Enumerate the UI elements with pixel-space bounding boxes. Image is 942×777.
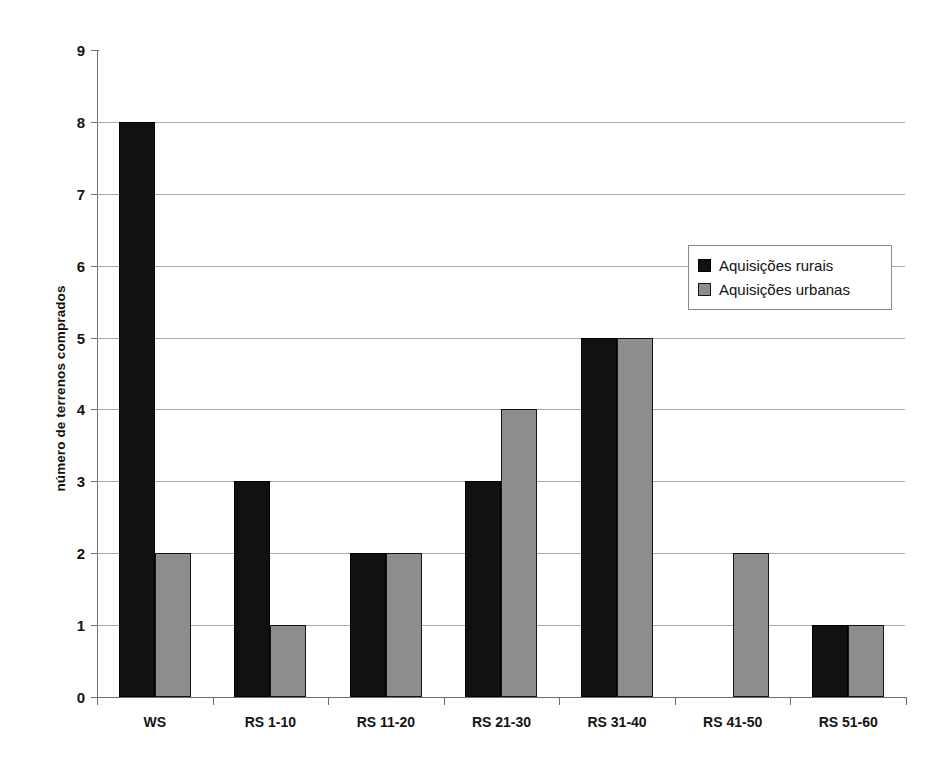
legend-swatch-urban-icon bbox=[698, 283, 711, 296]
bar-rural bbox=[581, 338, 617, 697]
bar-rural bbox=[465, 481, 501, 697]
legend: Aquisições rurais Aquisições urbanas bbox=[688, 245, 892, 310]
x-axis-tick-mark bbox=[675, 697, 676, 705]
bar-urban bbox=[155, 553, 191, 697]
x-axis-tick-mark bbox=[906, 697, 907, 705]
x-axis-tick-mark bbox=[97, 697, 98, 705]
bar-group bbox=[328, 50, 444, 697]
bar-rural bbox=[234, 481, 270, 697]
x-axis-tick-marks bbox=[97, 697, 906, 707]
x-axis-tick-mark bbox=[559, 697, 560, 705]
bar-urban bbox=[270, 625, 306, 697]
bar-urban bbox=[501, 409, 537, 697]
bar-urban bbox=[386, 553, 422, 697]
legend-label-urban: Aquisições urbanas bbox=[719, 281, 850, 298]
bar-chart: número de terrenos comprados 0123456789 … bbox=[0, 0, 942, 777]
x-axis-tick-label: RS 11-20 bbox=[357, 714, 415, 730]
x-axis-tick-label: WS bbox=[144, 714, 167, 730]
bar-rural bbox=[350, 553, 386, 697]
x-axis-tick-label: RS 41-50 bbox=[703, 714, 762, 730]
plot-area bbox=[97, 50, 905, 697]
legend-item: Aquisições urbanas bbox=[698, 277, 882, 301]
bar-group bbox=[675, 50, 791, 697]
bar-rural bbox=[812, 625, 848, 697]
x-axis-tick-mark bbox=[790, 697, 791, 705]
x-axis-tick-mark bbox=[328, 697, 329, 705]
x-axis-tick-label: RS 51-60 bbox=[819, 714, 878, 730]
bar-group bbox=[559, 50, 675, 697]
bar-rural bbox=[119, 122, 155, 697]
x-axis-tick-mark bbox=[444, 697, 445, 705]
x-axis-tick-label: RS 31-40 bbox=[587, 714, 646, 730]
bar-urban bbox=[848, 625, 884, 697]
bar-group bbox=[790, 50, 906, 697]
bar-group bbox=[444, 50, 560, 697]
bar-group bbox=[213, 50, 329, 697]
x-axis-tick-label: RS 1-10 bbox=[245, 714, 296, 730]
legend-swatch-rural-icon bbox=[698, 259, 711, 272]
legend-item: Aquisições rurais bbox=[698, 253, 882, 277]
bar-group bbox=[97, 50, 213, 697]
x-axis-tick-label: RS 21-30 bbox=[472, 714, 531, 730]
legend-label-rural: Aquisições rurais bbox=[719, 257, 833, 274]
bar-urban bbox=[733, 553, 769, 697]
bar-urban bbox=[617, 338, 653, 697]
x-axis-tick-mark bbox=[213, 697, 214, 705]
